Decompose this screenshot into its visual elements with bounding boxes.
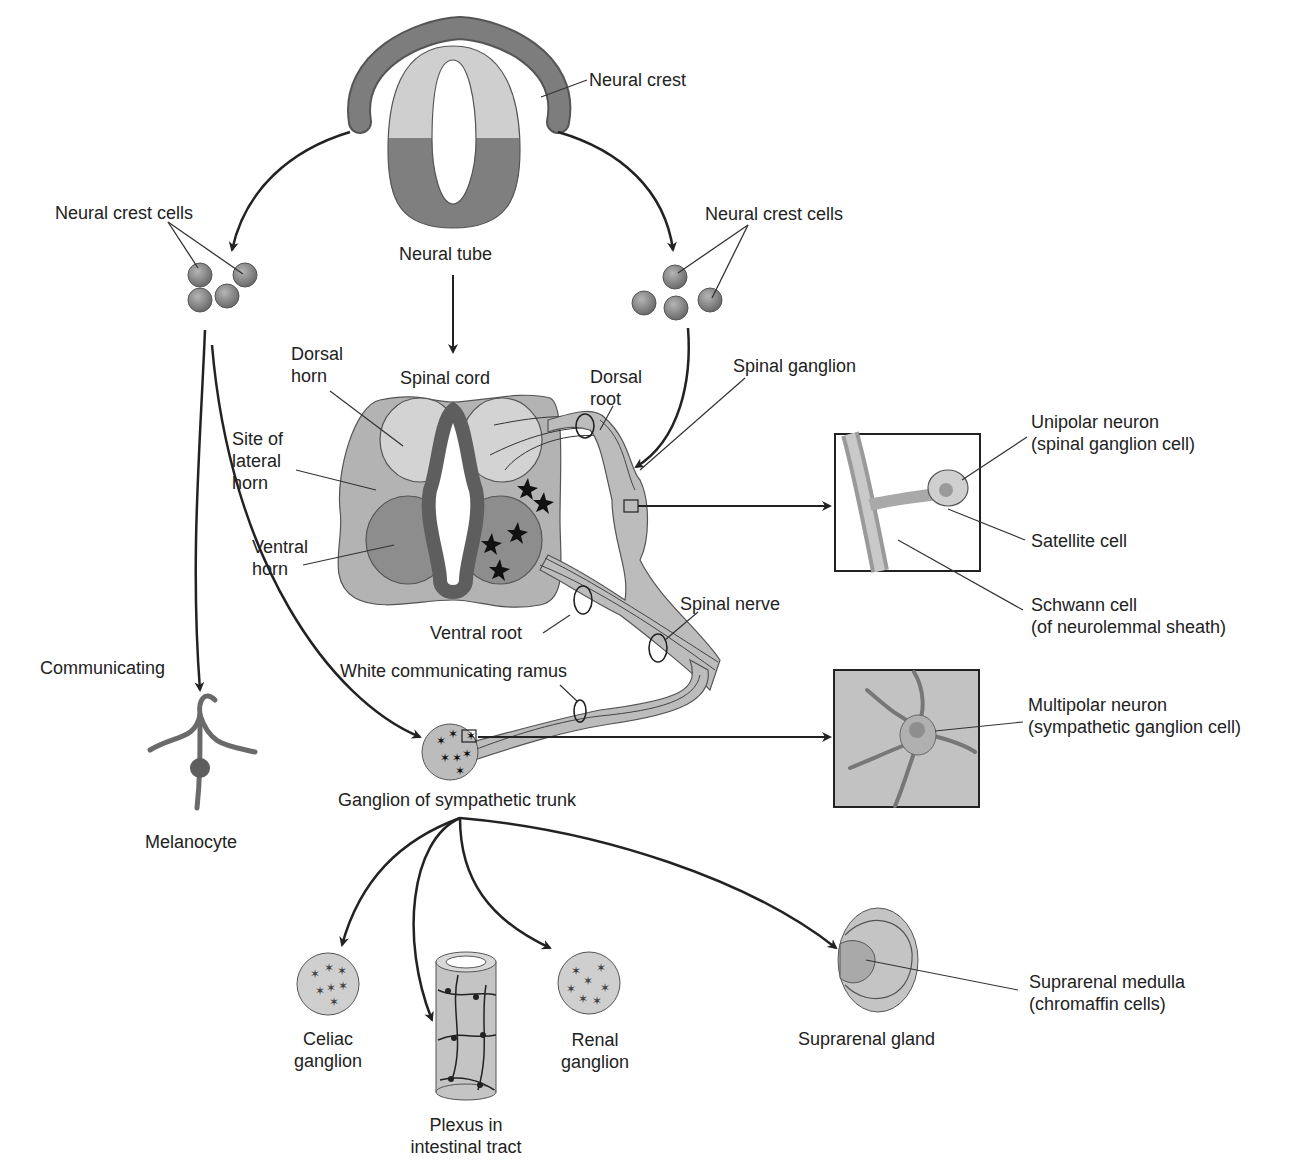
label-ventral-horn: Ventralhorn (252, 536, 308, 580)
svg-text:✶: ✶ (326, 981, 336, 995)
svg-text:✶: ✶ (592, 994, 602, 1008)
svg-text:✶: ✶ (324, 961, 334, 975)
label-plexus-intestinal: Plexus inintestinal tract (406, 1114, 526, 1158)
label-schwann-cell: Schwann cell(of neurolemmal sheath) (1031, 594, 1226, 638)
label-spinal-nerve: Spinal nerve (680, 593, 780, 615)
svg-text:✶: ✶ (315, 984, 325, 998)
svg-text:✶: ✶ (583, 974, 593, 988)
svg-text:✶: ✶ (462, 747, 472, 761)
neural-crest-cells-left (188, 263, 257, 312)
label-site-of-lateral-horn: Site oflateralhorn (232, 428, 283, 494)
sympathetic-ganglion-shape: ✶✶✶ ✶✶✶✶ (422, 724, 478, 780)
label-spinal-cord: Spinal cord (400, 367, 490, 389)
label-spinal-ganglion: Spinal ganglion (733, 355, 856, 377)
renal-ganglion-shape: ✶✶✶ ✶✶✶✶ (558, 952, 620, 1014)
svg-text:✶: ✶ (578, 992, 588, 1006)
svg-text:✶: ✶ (571, 964, 581, 978)
svg-text:✶: ✶ (596, 961, 606, 975)
svg-text:✶: ✶ (338, 979, 348, 993)
label-unipolar-neuron: Unipolar neuron(spinal ganglion cell) (1031, 411, 1195, 455)
melanocyte-shape (150, 696, 255, 808)
svg-text:✶: ✶ (436, 734, 446, 748)
svg-text:✶: ✶ (452, 751, 462, 765)
label-satellite-cell: Satellite cell (1031, 530, 1127, 552)
neural-crest-cells-right (632, 265, 722, 320)
celiac-ganglion-shape: ✶✶✶ ✶✶✶✶ (297, 953, 359, 1015)
svg-text:✶: ✶ (448, 727, 458, 741)
label-white-communicating-ramus: White communicating ramus (340, 660, 567, 682)
label-neural-crest-cells-right: Neural crest cells (705, 203, 843, 225)
label-dorsal-root: Dorsalroot (590, 366, 642, 410)
svg-text:✶: ✶ (310, 967, 320, 981)
svg-text:✶: ✶ (466, 729, 476, 743)
label-suprarenal-medulla: Suprarenal medulla(chromaffin cells) (1029, 971, 1185, 1015)
svg-text:✶: ✶ (566, 982, 576, 996)
label-dorsal-horn: Dorsalhorn (291, 343, 343, 387)
label-neural-crest-cells-left: Neural crest cells (55, 202, 193, 224)
suprarenal-gland-shape (838, 908, 918, 1012)
intestinal-plexus-shape (436, 952, 496, 1100)
label-neural-tube: Neural tube (399, 243, 492, 265)
label-suprarenal-gland: Suprarenal gland (798, 1028, 935, 1050)
svg-text:✶: ✶ (337, 964, 347, 978)
svg-text:✶: ✶ (600, 981, 610, 995)
unipolar-neuron-inset (835, 434, 980, 571)
svg-text:✶: ✶ (329, 995, 339, 1009)
svg-text:✶: ✶ (440, 751, 450, 765)
svg-text:✶: ✶ (455, 764, 465, 778)
label-neural-crest: Neural crest (589, 69, 686, 91)
neural-crest-shape (359, 28, 559, 122)
label-melanocyte: Melanocyte (145, 831, 237, 853)
label-communicating: Communicating (40, 657, 165, 679)
multipolar-neuron-inset (834, 670, 979, 807)
label-celiac-ganglion: Celiacganglion (278, 1028, 378, 1072)
label-multipolar-neuron: Multipolar neuron(sympathetic ganglion c… (1028, 694, 1241, 738)
neural-tube-shape (388, 46, 520, 228)
label-renal-ganglion: Renalganglion (545, 1029, 645, 1073)
label-ganglion-sympathetic-trunk: Ganglion of sympathetic trunk (338, 789, 576, 811)
label-ventral-root: Ventral root (430, 622, 522, 644)
